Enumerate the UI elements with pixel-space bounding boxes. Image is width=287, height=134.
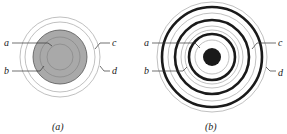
label-a: a [4, 37, 9, 48]
label-b: b [144, 65, 149, 76]
panel-b: a b c d (b) [144, 2, 284, 133]
leader-c [95, 43, 110, 49]
diagram-canvas: a b c d (a) a b c d (b) [0, 0, 287, 134]
label-c: c [278, 37, 283, 48]
label-b: b [4, 65, 9, 76]
leader-d [266, 67, 276, 71]
center-dot [203, 48, 221, 66]
label-c: c [112, 37, 117, 48]
caption-b: (b) [205, 121, 217, 133]
label-d: d [278, 67, 284, 78]
gray-disk [33, 30, 87, 84]
leader-c [252, 43, 276, 49]
label-a: a [144, 37, 149, 48]
caption-a: (a) [52, 121, 64, 133]
leader-d [100, 66, 110, 71]
panel-a: a b c d (a) [4, 17, 118, 133]
label-d: d [112, 65, 118, 76]
